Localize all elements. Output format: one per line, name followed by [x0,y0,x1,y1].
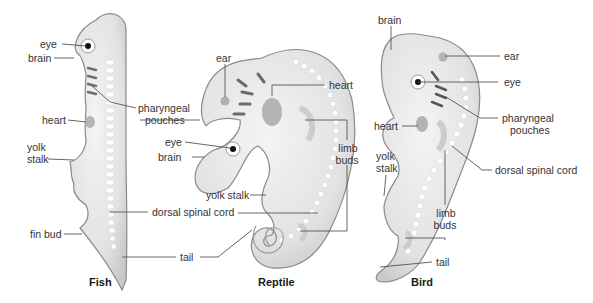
reptile-label-yolk-stalk: yolk stalk [206,189,249,201]
reptile-caption: Reptile [258,276,295,288]
reptile-label-heart: heart [329,79,353,91]
bird-heart [416,116,428,132]
bird-label-yolk: yolk [376,150,395,162]
fish-caption: Fish [89,276,112,288]
bird-label-eye: eye [504,76,521,88]
reptile-label-ear: ear [216,52,231,64]
fish-embryo [70,14,127,290]
reptile-label-brain: brain [158,151,181,163]
reptile-label-eye: eye [165,136,182,148]
fish-label-pharyngeal: pharyngeal [138,102,190,114]
bird-label-brain: brain [378,14,401,26]
fish-label-stalk: stalk [27,153,49,165]
fish-heart [85,116,95,128]
fish-body-outline [70,14,127,290]
reptile-ear [221,97,230,106]
label-tail: tail [180,251,193,263]
bird-label-buds: buds [432,219,458,231]
fish-label-brain: brain [28,52,51,64]
bird-caption: Bird [411,276,433,288]
bird-label-pharyngeal: pharyngeal [502,112,554,124]
bird-label-ear: ear [504,50,519,62]
embryo-illustrations [0,0,593,303]
bird-label-pouches: pouches [510,124,550,136]
bird-label-dorsal-spinal-cord: dorsal spinal cord [495,164,577,176]
label-dorsal-spinal-cord: dorsal spinal cord [152,206,234,218]
fish-label-fin-bud: fin bud [30,228,62,240]
reptile-heart [262,98,282,126]
bird-label-limb: limb [434,207,458,219]
reptile-label-limb: limb [336,142,360,154]
bird-label-stalk: stalk [376,162,398,174]
reptile-label-buds: buds [334,154,360,166]
fish-label-yolk: yolk [27,141,46,153]
bird-ear [439,53,448,62]
fish-label-eye: eye [40,38,57,50]
fish-label-pouches: pouches [145,114,185,126]
bird-label-tail: tail [436,256,449,268]
bird-label-heart: heart [374,120,398,132]
embryo-diagram: eye brain pharyngeal pouches heart yolk … [0,0,593,303]
fish-label-heart: heart [42,114,66,126]
